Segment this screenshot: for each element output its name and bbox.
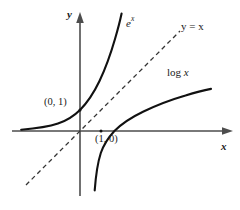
exp-curve — [21, 14, 121, 130]
point-marker-0-1 — [79, 109, 82, 112]
log-curve-word: log — [167, 66, 181, 78]
identity-line-label: y = x — [181, 21, 204, 32]
log-curve-variable: x — [184, 66, 189, 78]
point-label-0-1: (0, 1) — [44, 97, 67, 108]
x-axis-label: x — [221, 141, 227, 152]
y-axis-label: y — [67, 9, 72, 20]
log-curve-label: log x — [167, 67, 189, 78]
exp-curve-exponent: x — [131, 14, 134, 23]
y-axis-arrowhead — [76, 12, 84, 23]
identity-line-y-equals-x — [26, 31, 180, 185]
x-axis-arrowhead — [222, 127, 233, 135]
point-label-1-0: (1, 0) — [95, 134, 118, 145]
exp-curve-label: ex — [126, 16, 134, 29]
graph-canvas — [0, 0, 240, 210]
exp-log-graph-figure: y x ex y = x log x (0, 1) (1, 0) — [0, 0, 240, 210]
